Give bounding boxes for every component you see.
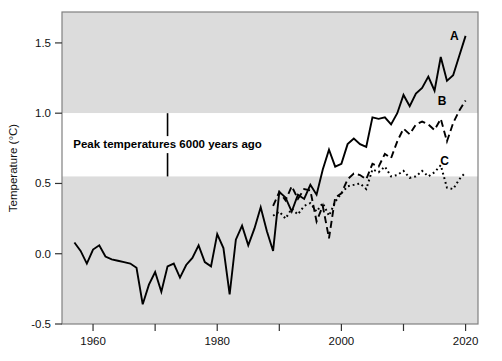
x-tick-label-2000: 2000 bbox=[329, 335, 355, 347]
y-tick-label--0.5: -0.5 bbox=[31, 318, 51, 330]
series-label-B: B bbox=[438, 94, 447, 108]
y-axis-title: Temperature (°C) bbox=[7, 124, 19, 212]
temperature-anomaly-line-chart: 1960198020002020 -0.50.00.51.01.5 Temper… bbox=[0, 0, 502, 361]
y-axis-tick-labels: -0.50.00.51.01.5 bbox=[31, 37, 51, 330]
upper-gray-band bbox=[62, 12, 478, 113]
lower-gray-band bbox=[62, 176, 478, 324]
y-tick-label-1.5: 1.5 bbox=[35, 37, 51, 49]
x-tick-label-1960: 1960 bbox=[80, 335, 106, 347]
x-axis-ticks bbox=[93, 324, 466, 331]
y-tick-label-1.0: 1.0 bbox=[35, 107, 51, 119]
x-axis-tick-labels: 1960198020002020 bbox=[80, 335, 478, 347]
x-tick-label-1980: 1980 bbox=[204, 335, 230, 347]
x-tick-label-2020: 2020 bbox=[453, 335, 479, 347]
series-label-A: A bbox=[450, 29, 459, 43]
annotation-label-peak-temperatures: Peak temperatures 6000 years ago bbox=[73, 138, 262, 150]
y-axis-ticks bbox=[55, 43, 62, 324]
plot-background bbox=[62, 12, 478, 324]
chart-figure: 1960198020002020 -0.50.00.51.01.5 Temper… bbox=[0, 0, 502, 361]
series-label-C: C bbox=[440, 154, 449, 168]
y-tick-label-0.0: 0.0 bbox=[35, 248, 51, 260]
y-tick-label-0.5: 0.5 bbox=[35, 177, 51, 189]
